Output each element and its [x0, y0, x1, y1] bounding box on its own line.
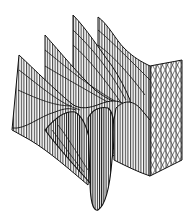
wireframe-surface-figure — [0, 0, 195, 223]
ridge-panel-right — [114, 102, 150, 176]
central-trough — [88, 107, 114, 210]
surface-plot — [0, 0, 195, 223]
